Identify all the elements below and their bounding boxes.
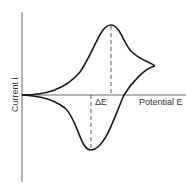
x-axis-label: Potential E (139, 97, 183, 107)
delta-e-label: ΔE (95, 97, 107, 107)
y-axis-label: Current i (10, 77, 20, 112)
forward-scan-curve (22, 25, 155, 95)
cyclic-voltammogram-diagram: ΔE Potential E Current i (0, 0, 195, 189)
reverse-scan-curve (22, 66, 155, 150)
